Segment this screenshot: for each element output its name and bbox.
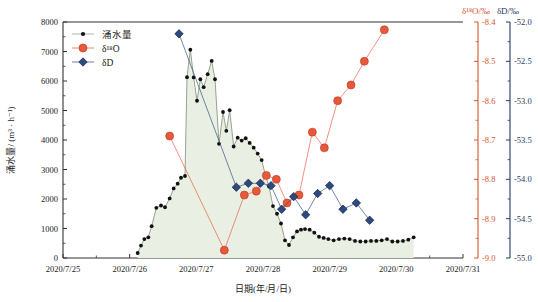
y-tick-label-right2: -52.0 xyxy=(514,17,532,27)
chart-container: 0100020003000400050006000700080002020/7/… xyxy=(0,0,538,302)
axis-title-right1: δ¹⁸O/‰ xyxy=(462,6,490,16)
data-point-涌水量 xyxy=(358,240,362,244)
data-point-涌水量 xyxy=(337,237,341,241)
data-point-δ¹⁸O xyxy=(360,57,368,65)
data-point-涌水量 xyxy=(369,239,373,243)
data-point-涌水量 xyxy=(195,99,199,103)
legend-marker-0 xyxy=(81,32,85,36)
data-point-涌水量 xyxy=(299,228,303,232)
x-tick-label: 2020/7/26 xyxy=(112,264,146,274)
data-point-涌水量 xyxy=(146,235,150,239)
data-point-涌水量 xyxy=(136,251,140,255)
data-point-δD xyxy=(301,211,309,219)
y-tick-label-right2: -52.5 xyxy=(514,56,532,66)
data-point-涌水量 xyxy=(163,205,167,209)
data-point-涌水量 xyxy=(188,48,192,52)
data-point-δ¹⁸O xyxy=(334,97,342,105)
y-tick-label-right2: -55.0 xyxy=(514,253,532,263)
data-point-涌水量 xyxy=(168,197,172,201)
discharge-area-fill xyxy=(138,50,414,258)
y-tick-label-left: 0 xyxy=(54,253,58,263)
data-point-涌水量 xyxy=(206,72,210,76)
data-point-涌水量 xyxy=(260,158,264,162)
data-point-涌水量 xyxy=(221,110,225,114)
x-tick-label: 2020/7/25 xyxy=(46,264,80,274)
y-tick-label-right1: -8.5 xyxy=(482,56,495,66)
y-tick-label-left: 2000 xyxy=(41,194,58,204)
y-tick-label-left: 1000 xyxy=(41,224,58,234)
data-point-涌水量 xyxy=(275,212,279,216)
y-tick-label-right2: -54.0 xyxy=(514,174,532,184)
x-tick-label: 2020/7/30 xyxy=(379,264,413,274)
data-point-涌水量 xyxy=(279,222,283,226)
data-point-涌水量 xyxy=(332,238,336,242)
y-tick-label-right2: -54.5 xyxy=(514,214,532,224)
y-tick-label-left: 7000 xyxy=(41,47,58,57)
data-point-涌水量 xyxy=(172,186,176,190)
data-point-δ¹⁸O xyxy=(308,128,316,136)
data-point-涌水量 xyxy=(228,108,232,112)
data-point-涌水量 xyxy=(236,136,240,140)
legend-label-0: 涌水量 xyxy=(102,29,132,40)
data-point-涌水量 xyxy=(248,141,252,145)
data-point-δD xyxy=(175,30,183,38)
data-point-涌水量 xyxy=(185,75,189,79)
x-tick-label: 2020/7/31 xyxy=(446,264,480,274)
legend-marker-1 xyxy=(79,44,87,52)
axis-title-right2: δD/‰ xyxy=(497,6,519,16)
data-point-涌水量 xyxy=(271,204,275,208)
y-tick-label-left: 3000 xyxy=(41,165,58,175)
y-tick-label-left: 4000 xyxy=(41,135,58,145)
data-point-涌水量 xyxy=(176,182,180,186)
data-point-涌水量 xyxy=(308,228,312,232)
data-point-δ¹⁸O xyxy=(347,81,355,89)
data-point-涌水量 xyxy=(224,129,228,133)
y-tick-label-right1: -8.4 xyxy=(482,17,496,27)
data-point-涌水量 xyxy=(179,176,183,180)
data-point-涌水量 xyxy=(364,240,368,244)
data-point-涌水量 xyxy=(326,237,330,241)
data-point-涌水量 xyxy=(142,237,146,241)
data-point-δD xyxy=(325,181,333,189)
data-point-涌水量 xyxy=(252,146,256,150)
data-point-涌水量 xyxy=(213,77,217,81)
data-point-涌水量 xyxy=(353,239,357,243)
x-tick-label: 2020/7/27 xyxy=(179,264,213,274)
legend-label-2: δD xyxy=(102,58,113,68)
data-point-涌水量 xyxy=(406,238,410,242)
data-point-δ¹⁸O xyxy=(252,187,260,195)
data-point-涌水量 xyxy=(183,174,187,178)
data-point-涌水量 xyxy=(412,235,416,239)
data-point-涌水量 xyxy=(401,239,405,243)
data-point-δ¹⁸O xyxy=(262,171,270,179)
data-point-涌水量 xyxy=(244,136,248,140)
x-tick-label: 2020/7/29 xyxy=(312,264,346,274)
legend-marker-2 xyxy=(79,58,87,66)
data-point-涌水量 xyxy=(150,224,154,228)
data-point-涌水量 xyxy=(287,243,291,247)
data-point-涌水量 xyxy=(202,85,206,89)
data-point-δ¹⁸O xyxy=(220,246,228,254)
data-point-δD xyxy=(339,205,347,213)
data-point-δ¹⁸O xyxy=(320,144,328,152)
x-axis-title: 日期(年/月/日) xyxy=(235,283,291,294)
data-point-涌水量 xyxy=(342,237,346,241)
data-point-涌水量 xyxy=(312,231,316,235)
data-point-涌水量 xyxy=(303,227,307,231)
data-point-涌水量 xyxy=(256,152,260,156)
data-point-涌水量 xyxy=(232,145,236,149)
data-point-涌水量 xyxy=(348,237,352,241)
y-axis-title: 涌水量/ (m³ · h⁻¹) xyxy=(5,106,16,173)
y-tick-label-right1: -8.7 xyxy=(482,135,495,145)
y-tick-label-right1: -8.8 xyxy=(482,174,495,184)
y-tick-label-left: 8000 xyxy=(41,17,58,27)
data-point-涌水量 xyxy=(374,239,378,243)
data-point-涌水量 xyxy=(322,236,326,240)
y-tick-label-right2: -53.0 xyxy=(514,96,532,106)
data-point-δ¹⁸O xyxy=(380,26,388,34)
data-point-δ¹⁸O xyxy=(166,132,174,140)
legend-label-1: δ¹⁸O xyxy=(102,44,120,54)
water-inflow-isotope-chart: 0100020003000400050006000700080002020/7/… xyxy=(0,0,538,302)
data-point-涌水量 xyxy=(159,204,163,208)
data-point-涌水量 xyxy=(396,240,400,244)
